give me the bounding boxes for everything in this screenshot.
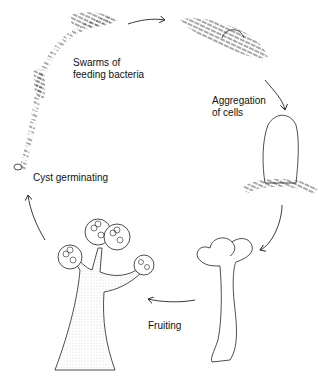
aggregation-mound [180, 18, 268, 58]
label-aggregation: Aggregation of cells [212, 95, 266, 119]
mature-fruiting-body [55, 219, 154, 370]
label-swarms-line1: Swarms of [73, 57, 144, 69]
label-fruiting: Fruiting [148, 320, 181, 332]
label-aggregation-line1: Aggregation [212, 95, 266, 107]
label-aggregation-line2: of cells [212, 107, 266, 119]
label-cyst: Cyst germinating [33, 172, 108, 184]
young-fruiting-body [197, 238, 252, 362]
dome-stage [245, 115, 315, 192]
label-swarms-line2: feeding bacteria [73, 69, 144, 81]
bacteria-swarm [14, 12, 118, 170]
label-swarms: Swarms of feeding bacteria [73, 57, 144, 81]
